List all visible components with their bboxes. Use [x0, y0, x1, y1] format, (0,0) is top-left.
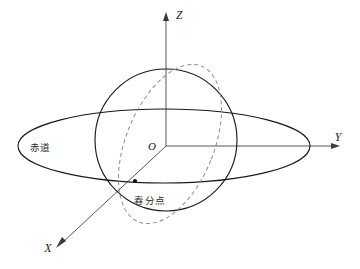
z-axis-arrowhead-icon	[163, 12, 169, 21]
origin-label: O	[148, 140, 156, 152]
z-axis	[163, 12, 169, 146]
diagram-canvas: Z Y X O 赤道 春分点	[0, 0, 360, 269]
ecliptic-ellipse	[98, 50, 243, 239]
equator-label: 赤道	[30, 142, 51, 153]
vernal-equinox-label: 春分点	[134, 195, 166, 206]
x-axis-arrowhead-icon	[56, 237, 66, 248]
vernal-equinox-point	[133, 179, 137, 183]
x-axis-label: X	[43, 242, 52, 254]
y-axis	[166, 143, 340, 149]
axes-group	[56, 12, 340, 248]
y-axis-label: Y	[335, 131, 343, 143]
z-axis-label: Z	[176, 9, 183, 21]
y-axis-arrowhead-icon	[331, 143, 340, 149]
celestial-sphere-diagram: Z Y X O 赤道 春分点	[0, 0, 360, 269]
